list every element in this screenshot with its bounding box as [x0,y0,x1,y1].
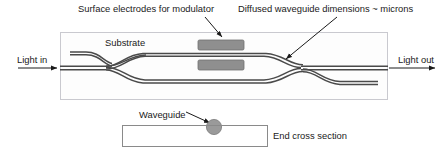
mach-zehnder-modulator-figure [0,0,448,155]
label-diffused-waveguide-dimensions: Diffused waveguide dimensions ~ microns [238,4,413,13]
cross-section-box [123,126,268,147]
label-surface-electrodes: Surface electrodes for modulator [78,4,214,13]
label-light-out: Light out [398,55,434,64]
label-waveguide: Waveguide [139,110,186,119]
electrode-lower[interactable] [198,60,244,70]
label-end-cross-section: End cross section [273,131,347,140]
label-light-in: Light in [17,55,47,64]
electrode-upper[interactable] [198,40,244,50]
waveguide-pointer-arrow [186,112,210,123]
label-substrate: Substrate [105,38,145,47]
cross-section-waveguide-icon [206,119,221,134]
